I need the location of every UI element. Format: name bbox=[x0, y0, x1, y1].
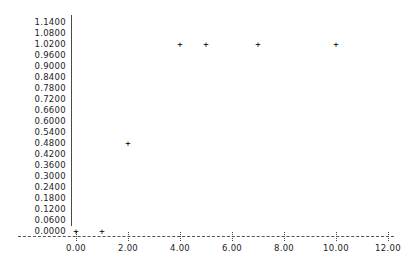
y-axis-tick-label: 0.6600 bbox=[34, 106, 66, 115]
y-axis-tick-label: 0.0600 bbox=[34, 216, 66, 225]
y-axis-tick-label: 0.8400 bbox=[34, 73, 66, 82]
data-point bbox=[73, 228, 80, 235]
x-axis-tick-label: 0.00 bbox=[66, 243, 86, 253]
x-axis-tick-mark bbox=[284, 232, 286, 241]
x-axis-tick-label: 6.00 bbox=[222, 243, 242, 253]
y-axis-tick-label: 0.5400 bbox=[34, 128, 66, 137]
y-axis-tick-label: 0.1800 bbox=[34, 194, 66, 203]
x-axis-tick-mark bbox=[232, 232, 234, 241]
y-axis-tick-label: 1.0200 bbox=[34, 40, 66, 49]
y-axis-tick-label: 0.9000 bbox=[34, 62, 66, 71]
y-axis-tick-label: 1.0800 bbox=[34, 29, 66, 38]
y-axis-tick-label: 0.9600 bbox=[34, 51, 66, 60]
data-point bbox=[203, 41, 210, 48]
data-point bbox=[255, 41, 262, 48]
x-axis-tick-label: 12.00 bbox=[375, 243, 401, 253]
scatter-plot: 1.14001.08001.02000.96000.90000.84000.78… bbox=[0, 0, 420, 273]
x-axis-tick-mark bbox=[388, 232, 390, 241]
data-point bbox=[99, 228, 106, 235]
y-axis-tick-label: 0.6000 bbox=[34, 117, 66, 126]
y-axis-tick-label: 0.2400 bbox=[34, 183, 66, 192]
x-axis-tick-mark bbox=[128, 232, 130, 241]
x-axis-tick-label: 10.00 bbox=[323, 243, 349, 253]
y-axis-tick-labels: 1.14001.08001.02000.96000.90000.84000.78… bbox=[0, 0, 66, 273]
y-axis-tick-label: 0.1200 bbox=[34, 205, 66, 214]
y-axis-tick-label: 1.1400 bbox=[34, 18, 66, 27]
x-axis-tick-label: 2.00 bbox=[118, 243, 138, 253]
y-axis-tick-label: 0.4200 bbox=[34, 150, 66, 159]
x-axis-tick-mark bbox=[336, 232, 338, 241]
y-axis-line bbox=[71, 15, 72, 226]
y-axis-tick-label: 0.7200 bbox=[34, 95, 66, 104]
x-axis-tick-label: 8.00 bbox=[274, 243, 294, 253]
y-axis-tick-label: 0.4800 bbox=[34, 139, 66, 148]
y-axis-tick-label: 0.7800 bbox=[34, 84, 66, 93]
y-axis-tick-label: 0.0000 bbox=[34, 227, 66, 236]
y-axis-tick-label: 0.3600 bbox=[34, 161, 66, 170]
x-axis-tick-label: 4.00 bbox=[170, 243, 190, 253]
data-point bbox=[177, 41, 184, 48]
data-point bbox=[333, 41, 340, 48]
x-axis-tick-mark bbox=[180, 232, 182, 241]
y-axis-tick-label: 0.3000 bbox=[34, 172, 66, 181]
data-point bbox=[125, 140, 132, 147]
